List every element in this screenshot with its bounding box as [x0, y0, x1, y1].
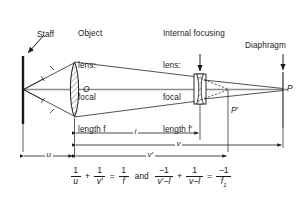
term-neg1-over-f1: −1 f1: [216, 166, 231, 187]
plus-operator-2: +: [177, 171, 182, 181]
object-lens-label: Object lens: focal length f: [78, 8, 106, 156]
internal-lens-line-4: length f′: [163, 125, 225, 136]
object-lens-line-1: Object: [78, 29, 106, 40]
equation-2: −1 v′−l + 1 v−l = −1 f1: [153, 166, 234, 187]
conjunction-and: and: [135, 171, 149, 181]
object-lens-line-4: length f: [78, 125, 106, 136]
point-p-label: P: [287, 83, 293, 93]
dim-label-l: l: [133, 127, 138, 136]
ray-tick-bottom-outer: [50, 109, 54, 113]
internal-lens-line-1: Internal focusing: [163, 29, 225, 40]
internal-lens-line-2: lens:: [163, 61, 225, 72]
lens-equation-formula: 1 u + 1 v′ = 1 f and −1 v′−l: [0, 166, 302, 187]
dim-label-v-prime: v′: [146, 150, 155, 159]
diaphragm-label: Diaphragm: [245, 41, 286, 52]
plus-operator-1: +: [85, 171, 90, 181]
term-1-over-v-minus-l: 1 v−l: [186, 166, 202, 187]
object-lens-line-3: focal: [78, 93, 106, 104]
internal-lens-line-3: focal: [163, 93, 225, 104]
ray-inner-upper: [24, 79, 44, 90]
dim-label-u: u: [45, 150, 53, 159]
lens-center-label: O: [83, 84, 90, 94]
term-neg1-over-vprime-minus-l: −1 v′−l: [155, 166, 173, 187]
point-p-prime-label: P′: [231, 105, 238, 115]
term-1-over-v-prime: 1 v′: [94, 166, 105, 187]
internal-lens-label: Internal focusing lens: focal length f′: [163, 8, 225, 156]
staff-label: Staff: [37, 30, 54, 41]
ray-tick-top-outer: [50, 66, 54, 70]
dim-label-v: v: [175, 139, 182, 148]
optics-diagram-figure: Staff Object lens: focal length f Intern…: [0, 0, 302, 207]
object-lens-line-2: lens:: [78, 61, 106, 72]
term-1-over-u: 1 u: [71, 166, 81, 187]
term-1-over-f: 1 f: [119, 166, 129, 187]
denominator-f-sub-1: f1: [218, 177, 229, 187]
ray-inner-lower: [24, 90, 44, 101]
equals-operator-2: =: [207, 171, 212, 181]
equals-operator-1: =: [109, 171, 114, 181]
equation-1: 1 u + 1 v′ = 1 f: [69, 166, 131, 187]
